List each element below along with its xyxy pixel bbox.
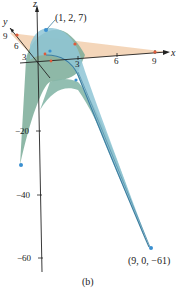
z-axis-label: z (32, 0, 37, 9)
y-tick-9: 9 (3, 31, 8, 41)
min-point (149, 246, 153, 250)
x-tick-9: 9 (152, 56, 157, 66)
x-tick-6: 6 (114, 56, 119, 66)
max-point-label: (1, 2, 7) (55, 12, 87, 24)
y-tick-3: 3 (22, 52, 27, 62)
z-tick-neg40: −40 (16, 190, 31, 200)
x-axis-label: x (170, 47, 176, 58)
x-axis-arrow (163, 50, 170, 55)
x-tick-3: 3 (75, 59, 80, 69)
y-tick-6: 6 (14, 41, 19, 51)
surface-edge-curve-2 (78, 72, 150, 247)
y-axis-label: y (2, 16, 8, 27)
max-point-leader (47, 20, 55, 29)
z-tick-neg20: −20 (15, 126, 30, 136)
surface-plot: z y x (1, 2, 7) (9, 0, −61) 3 6 9 9 6 3 … (0, 0, 180, 288)
min-point-label: (9, 0, −61) (128, 255, 170, 267)
z-tick-neg60: −60 (17, 253, 32, 263)
figure-caption: (b) (82, 276, 94, 288)
